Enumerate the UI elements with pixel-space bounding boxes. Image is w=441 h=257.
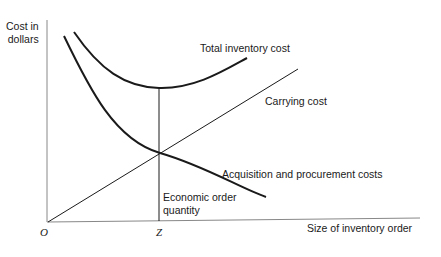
total-cost-curve	[74, 32, 247, 88]
z-label: Z	[156, 226, 162, 239]
carrying-cost-label: Carrying cost	[265, 95, 327, 108]
y-axis-label: Cost in dollars	[6, 20, 39, 46]
y-axis-label-line1: Cost in	[6, 20, 39, 33]
origin-label: O	[40, 226, 48, 239]
x-axis-label: Size of inventory order	[307, 222, 412, 235]
total-cost-label: Total inventory cost	[200, 42, 290, 55]
eoq-label-line1: Economic order	[163, 191, 237, 204]
eoq-label: Economic order quantity	[163, 191, 237, 217]
y-axis-label-line2: dollars	[6, 33, 39, 46]
acquisition-cost-label: Acquisition and procurement costs	[222, 168, 383, 181]
eoq-label-line2: quantity	[163, 204, 237, 217]
eoq-diagram	[0, 0, 441, 257]
